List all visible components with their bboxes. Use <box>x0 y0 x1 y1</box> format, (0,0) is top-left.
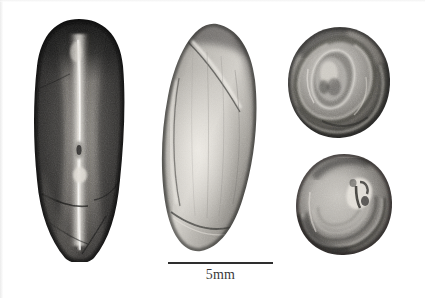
specimen-seed-ventral-view <box>32 18 127 262</box>
scale-bar: 5mm <box>168 262 273 283</box>
specimen-figure: 5mm <box>0 0 425 298</box>
specimen-seed-basal-view <box>294 152 394 257</box>
specimen-3-body <box>286 25 393 140</box>
scale-bar-line <box>168 262 273 264</box>
specimen-seed-apical-view <box>286 25 393 140</box>
scan-edge-left <box>0 0 3 298</box>
specimen-seed-lateral-view <box>155 22 263 253</box>
scan-edge-top <box>0 0 425 2</box>
specimen-4-body <box>294 152 394 257</box>
specimen-1-body <box>32 18 127 262</box>
specimen-2-body <box>155 22 263 253</box>
scale-bar-label: 5mm <box>168 267 273 283</box>
